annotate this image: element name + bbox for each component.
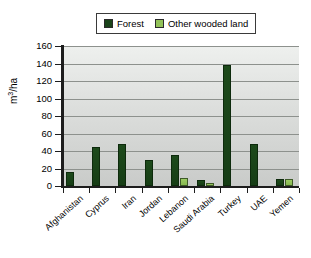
bar (180, 178, 188, 186)
y-axis-tick-label: 120 (18, 76, 52, 86)
y-axis-title-superscript: 3 (7, 92, 14, 96)
gridline (63, 64, 299, 65)
x-axis-tick-mark (220, 188, 221, 193)
bar (250, 144, 258, 186)
legend-item-other-wooded-land: Other wooded land (155, 19, 248, 29)
bar (171, 155, 179, 187)
y-axis-tick-mark (55, 99, 62, 100)
y-axis-tick-label: 20 (18, 164, 52, 174)
gridline (63, 116, 299, 117)
y-axis-tick-mark (55, 64, 62, 65)
legend-label-other-wooded-land: Other wooded land (168, 19, 248, 29)
gridline (63, 46, 299, 47)
bar (118, 144, 126, 186)
legend-swatch-forest (104, 19, 113, 28)
legend-label-forest: Forest (117, 19, 144, 29)
x-axis-category-label: Turkey (88, 194, 243, 258)
y-axis-tick-mark (55, 81, 62, 82)
y-axis-tick-label: 140 (18, 59, 52, 69)
bar (145, 160, 153, 186)
gridline (63, 99, 299, 100)
y-axis-tick-mark (55, 46, 62, 47)
x-axis-category-label: Yemen (140, 194, 295, 258)
x-axis-category-label: Jordan (9, 194, 164, 258)
x-axis-tick-mark (63, 188, 64, 193)
x-axis-tick-mark (115, 188, 116, 193)
x-axis-tick-mark (299, 188, 300, 193)
x-axis-category-label: UAE (114, 194, 269, 258)
legend-item-forest: Forest (104, 19, 144, 29)
bar (285, 179, 293, 186)
bar (66, 172, 74, 186)
x-axis-line (61, 186, 299, 188)
y-axis-tick-label: 80 (18, 111, 52, 121)
x-axis-tick-mark (89, 188, 90, 193)
legend-swatch-other-wooded-land (155, 19, 164, 28)
bar (276, 179, 284, 186)
plot-area (63, 46, 299, 186)
bar-chart: Forest Other wooded land m3/ha 160140120… (0, 0, 311, 258)
bar (223, 65, 231, 186)
y-axis-tick-label: 0 (18, 181, 52, 191)
y-axis-tick-mark (55, 134, 62, 135)
bar (92, 147, 100, 186)
y-axis-tick-mark (55, 169, 62, 170)
x-axis-tick-mark (142, 188, 143, 193)
gridline (63, 81, 299, 82)
y-axis-tick-label: 60 (18, 129, 52, 139)
chart-legend: Forest Other wooded land (96, 13, 256, 34)
x-axis-tick-mark (273, 188, 274, 193)
y-axis-tick-label: 40 (18, 146, 52, 156)
x-axis-category-label: Lebanon (36, 194, 191, 258)
y-axis-tick-mark (55, 116, 62, 117)
y-axis-tick-mark (55, 151, 62, 152)
y-axis-tick-mark (55, 186, 62, 187)
x-axis-tick-mark (247, 188, 248, 193)
y-axis-tick-label: 100 (18, 94, 52, 104)
x-axis-tick-mark (194, 188, 195, 193)
x-axis-tick-mark (168, 188, 169, 193)
gridline (63, 134, 299, 135)
y-axis-tick-label: 160 (18, 41, 52, 51)
